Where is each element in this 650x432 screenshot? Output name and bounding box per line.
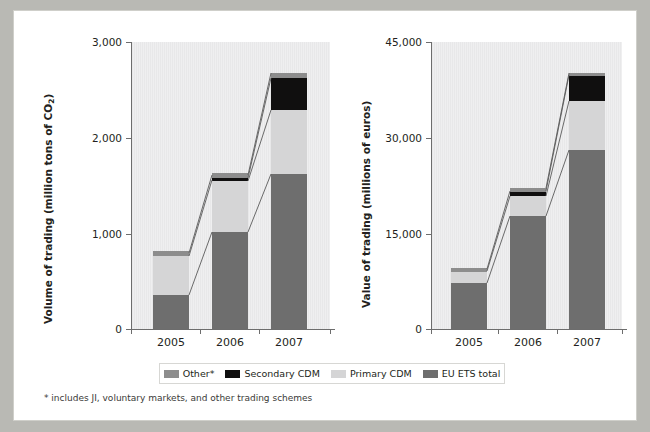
bar-segment-primary-cdm-2005-volume	[153, 256, 189, 295]
bar-segment-eu-ets-2005-volume	[153, 295, 189, 329]
bar-segment-primary-cdm-2005-value	[451, 271, 487, 283]
bar-segment-other-2007-volume	[271, 73, 307, 78]
y-axis-title-left-suffix: )	[42, 94, 54, 99]
x-tick-left-end	[330, 329, 331, 334]
figure-footnote: * includes JI, voluntary markets, and ot…	[44, 393, 312, 403]
x-tick-right-2006	[498, 329, 499, 334]
x-tick-right-2005	[431, 329, 432, 334]
bar-segment-other-2005-volume	[153, 251, 189, 256]
x-axis-line-right	[426, 329, 627, 330]
figure-card: Volume of trading (million tons of CO2) …	[14, 11, 636, 420]
bar-segment-other-2005-value	[451, 268, 487, 272]
bar-segment-primary-cdm-2006-volume	[212, 181, 248, 232]
legend-item-other: Other*	[164, 368, 215, 379]
y-axis-title-right: Value of trading (millions of euros)	[360, 101, 372, 308]
y-tick-left-2000	[126, 138, 131, 139]
bar-segment-secondary-cdm-2007-volume	[271, 78, 307, 110]
x-tick-left-2007	[259, 329, 260, 334]
bar-segment-secondary-cdm-2007-value	[569, 75, 605, 101]
bar-segment-eu-ets-2006-value	[510, 216, 546, 329]
y-axis-line-right	[431, 42, 432, 330]
x-tick-label-left-2005: 2005	[141, 337, 201, 348]
legend-label-eu-ets-total: EU ETS total	[442, 368, 501, 379]
x-tick-label-left-2006: 2006	[200, 337, 260, 348]
chart-legend: Other* Secondary CDM Primary CDM EU ETS …	[159, 363, 505, 384]
y-axis-title-left-subscript: 2	[47, 99, 56, 104]
bar-segment-other-2007-value	[569, 73, 605, 76]
legend-swatch-eu-ets-total	[423, 370, 438, 378]
bar-segment-eu-ets-2007-volume	[271, 174, 307, 329]
legend-label-other: Other*	[183, 368, 215, 379]
x-tick-label-right-2005: 2005	[439, 337, 499, 348]
y-axis-title-left: Volume of trading (million tons of CO2)	[42, 94, 56, 324]
bar-segment-primary-cdm-2006-value	[510, 196, 546, 216]
bar-segment-eu-ets-2007-value	[569, 150, 605, 329]
bar-segment-other-2006-volume	[212, 173, 248, 178]
legend-item-secondary-cdm: Secondary CDM	[225, 368, 319, 379]
x-axis-line-left	[126, 329, 335, 330]
x-tick-label-left-2007: 2007	[259, 337, 319, 348]
y-tick-label-right-15000: 15,000	[370, 229, 422, 239]
chart-panel-volume: Volume of trading (million tons of CO2) …	[22, 11, 338, 356]
legend-label-primary-cdm: Primary CDM	[350, 368, 412, 379]
bar-segment-secondary-cdm-2006-volume	[212, 178, 248, 181]
x-tick-left-2006	[200, 329, 201, 334]
legend-item-primary-cdm: Primary CDM	[331, 368, 412, 379]
bar-segment-other-2006-value	[510, 188, 546, 192]
y-axis-line-left	[131, 42, 132, 330]
y-tick-label-left-2000: 2,000	[76, 133, 122, 143]
y-tick-right-30000	[426, 138, 431, 139]
y-tick-label-right-30000: 30,000	[370, 133, 422, 143]
bar-segment-primary-cdm-2007-volume	[271, 110, 307, 174]
bar-segment-primary-cdm-2007-value	[569, 101, 605, 150]
x-tick-label-right-2006: 2006	[498, 337, 558, 348]
y-tick-left-1000	[126, 234, 131, 235]
y-tick-right-15000	[426, 234, 431, 235]
x-tick-right-2007	[557, 329, 558, 334]
y-tick-label-right-45000: 45,000	[370, 37, 422, 47]
figure-page: Volume of trading (million tons of CO2) …	[0, 0, 650, 432]
y-axis-title-left-text: Volume of trading (million tons of CO	[42, 104, 54, 324]
bar-segment-eu-ets-2005-value	[451, 283, 487, 329]
legend-swatch-secondary-cdm	[225, 370, 240, 378]
bar-segment-eu-ets-2006-volume	[212, 232, 248, 329]
y-tick-label-right-0: 0	[370, 324, 422, 334]
y-tick-left-3000	[126, 42, 131, 43]
legend-item-eu-ets-total: EU ETS total	[423, 368, 501, 379]
x-tick-right-end	[622, 329, 623, 334]
y-tick-right-45000	[426, 42, 431, 43]
legend-label-secondary-cdm: Secondary CDM	[244, 368, 319, 379]
legend-swatch-other	[164, 370, 179, 378]
legend-swatch-primary-cdm	[331, 370, 346, 378]
y-tick-label-left-3000: 3,000	[76, 37, 122, 47]
y-tick-label-left-1000: 1,000	[76, 229, 122, 239]
y-tick-label-left-0: 0	[76, 324, 122, 334]
chart-panel-value: Value of trading (millions of euros) 45,…	[344, 11, 636, 356]
x-tick-label-right-2007: 2007	[557, 337, 617, 348]
x-tick-left-2005	[131, 329, 132, 334]
